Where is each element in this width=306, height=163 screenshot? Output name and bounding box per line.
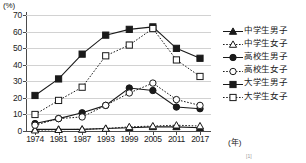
x-tick-label: 2005 <box>144 134 162 144</box>
data-point <box>173 96 179 102</box>
x-tick-mark <box>106 132 107 135</box>
plot-area: 010203040506070 197419811987199319992005… <box>26 12 211 132</box>
data-point <box>79 114 85 120</box>
data-point <box>173 57 179 63</box>
x-tick-label: 1993 <box>97 134 115 144</box>
y-tick-label: 50 <box>0 43 22 53</box>
data-point <box>79 51 85 57</box>
x-tick-mark <box>129 132 130 135</box>
legend-item-2[interactable]: 中学生女子 <box>222 35 304 48</box>
legend-marker-icon <box>222 63 244 74</box>
y-tick-label: 40 <box>0 60 22 70</box>
data-point <box>197 73 203 79</box>
x-axis-unit-label: (年) <box>228 136 241 147</box>
legend-item-4[interactable]: 高校生女子 <box>222 62 304 75</box>
data-point <box>32 111 38 117</box>
legend-marker-icon <box>222 89 244 100</box>
data-point <box>126 42 132 48</box>
legend-label: 中学生男子 <box>244 23 288 35</box>
legend-marker-icon <box>222 36 244 47</box>
legend-label: 中学生女子 <box>244 36 288 48</box>
chart-root: (%) 010203040506070 19741981198719931999… <box>0 0 306 163</box>
legend-label: 大学生女子 <box>244 89 288 101</box>
legend-marker-icon <box>222 76 244 87</box>
data-point <box>103 102 109 108</box>
legend-item-5[interactable]: 大学生男子 <box>222 75 304 88</box>
x-tick-label: 2011 <box>168 134 185 144</box>
y-tick-label: 30 <box>0 76 22 86</box>
data-point <box>32 92 38 98</box>
data-point <box>173 104 179 110</box>
legend-item-3[interactable]: 高校生男子 <box>222 48 304 61</box>
x-tick-mark <box>176 132 177 135</box>
legend-item-1[interactable]: 中学生男子 <box>222 22 304 35</box>
x-tick-mark <box>153 132 154 135</box>
data-point <box>55 76 61 82</box>
y-tick-label: 10 <box>0 109 22 119</box>
x-tick-label: 1987 <box>73 134 91 144</box>
data-point <box>55 97 61 103</box>
data-point <box>150 80 156 86</box>
chart-legend: 中学生男子中学生女子高校生男子高校生女子大学生男子大学生女子 <box>222 22 304 101</box>
corner-artifact: [1] <box>246 153 252 159</box>
data-point <box>126 90 132 96</box>
data-point <box>197 102 203 108</box>
data-point <box>150 87 156 93</box>
y-tick-label: 70 <box>0 10 22 20</box>
x-tick-label: 2017 <box>191 134 209 144</box>
legend-marker-icon <box>222 23 244 34</box>
legend-item-6[interactable]: 大学生女子 <box>222 88 304 101</box>
data-point <box>103 53 109 59</box>
data-point <box>150 25 156 31</box>
y-axis-unit-label: (%) <box>3 1 15 10</box>
legend-label: 高校生男子 <box>244 49 288 61</box>
x-tick-mark <box>200 132 201 135</box>
y-tick-label: 20 <box>0 93 22 103</box>
data-point <box>173 45 179 51</box>
data-series-layer <box>26 12 211 132</box>
y-tick-label: 60 <box>0 27 22 37</box>
y-tick-label: 0 <box>0 126 22 136</box>
data-point <box>32 122 38 128</box>
data-point <box>55 115 61 121</box>
data-point <box>197 55 203 61</box>
legend-marker-icon <box>222 49 244 60</box>
legend-label: 高校生女子 <box>244 62 288 74</box>
legend-label: 大学生男子 <box>244 75 288 87</box>
data-point <box>196 122 203 128</box>
data-point <box>103 32 109 38</box>
x-tick-label: 1974 <box>26 134 44 144</box>
data-point <box>79 84 85 90</box>
x-tick-label: 1999 <box>120 134 138 144</box>
data-point <box>126 26 132 32</box>
x-tick-label: 1981 <box>50 134 68 144</box>
